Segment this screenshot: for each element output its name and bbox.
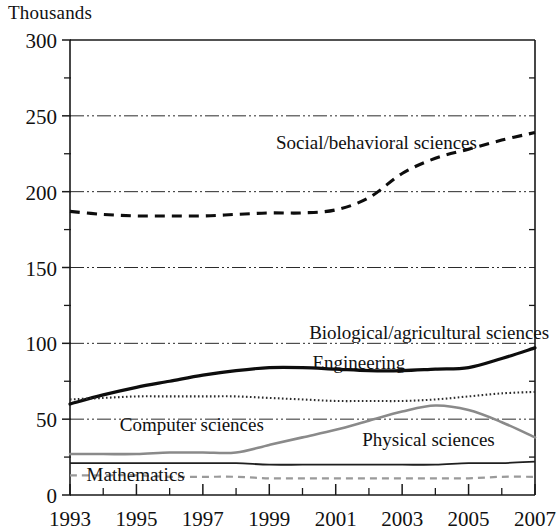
x-tick-label-1995: 1995 [115,507,157,531]
x-tick-label-2007: 2007 [514,507,556,531]
y-tick-label-200: 200 [26,181,58,205]
y-axis-unit-label: Thousands [8,2,92,24]
y-axis-labels-group: 050100150200250300 [26,29,58,508]
annotation-label-4: Physical sciences [362,429,494,450]
x-tick-label-2005: 2005 [448,507,490,531]
annotation-label-3: Computer sciences [120,414,264,435]
y-tick-label-250: 250 [26,105,58,129]
chart-figure: Thousands 050100150200250300 19931995199… [0,0,560,532]
y-tick-label-150: 150 [26,257,58,281]
series-line-2 [70,392,535,401]
gridlines-group [70,116,535,419]
annotation-label-5: Mathematics [87,464,185,485]
annotation-label-1: Biological/agricultural sciences [309,322,549,343]
annotation-label-2: Engineering [312,352,405,373]
x-tick-label-1993: 1993 [49,507,91,531]
x-tick-label-2003: 2003 [381,507,423,531]
annotation-label-0: Social/behavioral sciences [276,132,477,153]
x-tick-label-2001: 2001 [315,507,357,531]
y-tick-label-0: 0 [47,484,58,508]
y-tick-label-100: 100 [26,332,58,356]
x-tick-label-1997: 1997 [182,507,224,531]
x-axis-labels-group: 19931995199719992001200320052007 [49,507,556,531]
series-annotations-group: Social/behavioral sciencesBiological/agr… [87,132,550,485]
y-tick-label-50: 50 [36,408,57,432]
x-axis-ticks-group [70,484,535,495]
line-chart-plot: 050100150200250300 199319951997199920012… [0,0,560,532]
x-tick-label-1999: 1999 [248,507,290,531]
series-line-1 [70,348,535,404]
y-tick-label-300: 300 [26,29,58,53]
